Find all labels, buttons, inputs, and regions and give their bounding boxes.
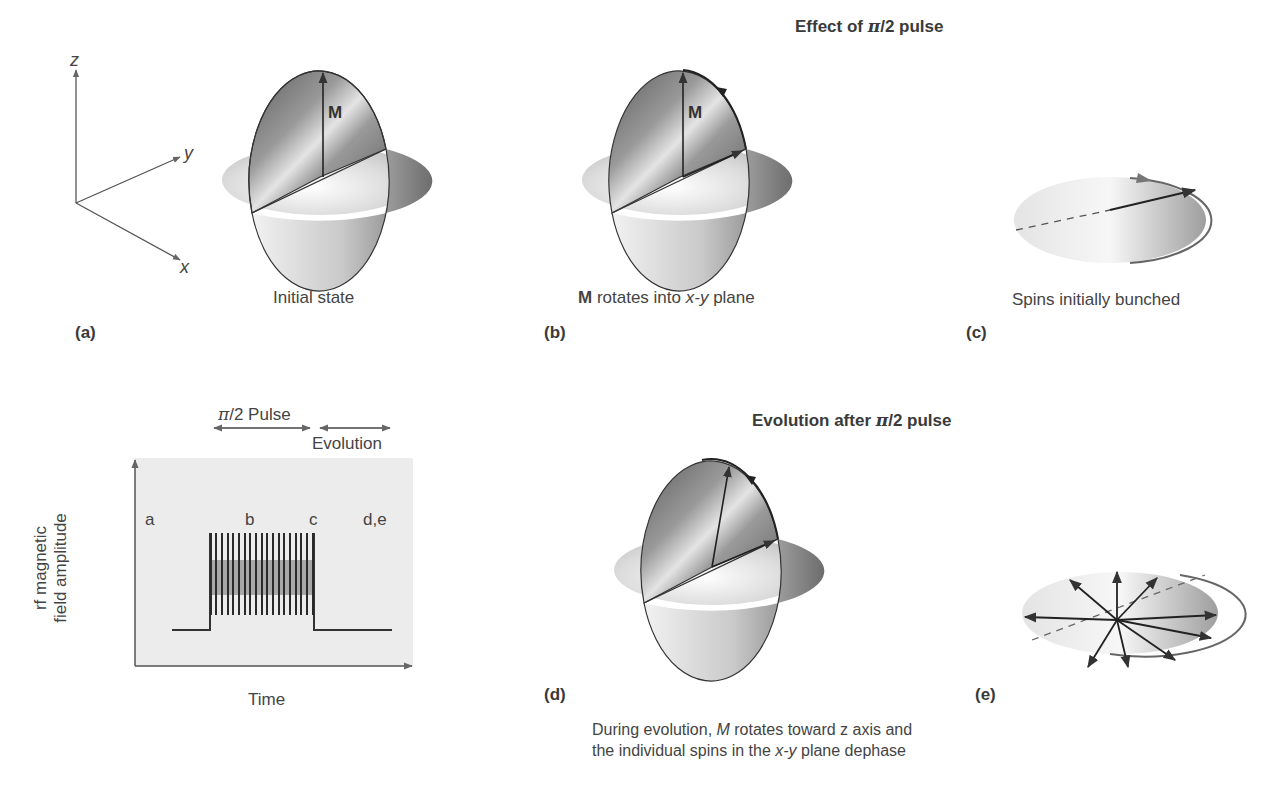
panel-label-b: (b) <box>544 323 566 343</box>
axes-lines <box>60 60 200 300</box>
caption-m-rotates: M rotates into x-y plane <box>578 288 755 308</box>
x-axis-label: Time <box>248 690 285 710</box>
stage-label-de: d,e <box>363 510 387 530</box>
panel-label-d: (d) <box>544 685 566 705</box>
caption-evolution: During evolution, M rotates toward z axi… <box>592 719 912 761</box>
stage-label-c: c <box>309 510 318 530</box>
axis-label-z: z <box>70 50 79 71</box>
axis-label-y: y <box>184 143 193 164</box>
vector-label-m: M <box>328 103 342 123</box>
panel-label-a: (a) <box>75 323 96 343</box>
heading-evolution-after-pulse: Evolution after π/2 pulse <box>752 410 952 431</box>
axis-label-x: x <box>180 257 189 278</box>
pulse-plot-canvas <box>120 415 420 715</box>
vector-label-m: M <box>688 103 702 123</box>
caption-spins-bunched: Spins initially bunched <box>1012 290 1180 310</box>
stage-label-a: a <box>145 510 154 530</box>
heading-effect-of-pulse: Effect of π/2 pulse <box>795 16 944 37</box>
caption-initial-state: Initial state <box>273 288 354 308</box>
panel-label-e: (e) <box>975 685 996 705</box>
panel-label-c: (c) <box>966 323 987 343</box>
stage-label-b: b <box>245 510 254 530</box>
y-axis-label: rf magnetic field amplitude <box>31 493 71 643</box>
